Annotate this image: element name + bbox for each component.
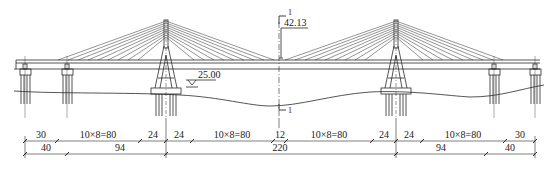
dim-label: 24 (404, 129, 414, 140)
dim-label: 10×8=80 (214, 129, 250, 140)
dim-label: 40 (505, 142, 515, 153)
pier-2 (62, 56, 73, 118)
bridge-deck (14, 60, 540, 69)
dim-label: 40 (41, 142, 51, 153)
dim-label: 30 (515, 129, 525, 140)
water-level-label: 25.00 (198, 69, 221, 80)
section-mark-top: 1 (288, 8, 292, 17)
section-mark-bottom: 1 (288, 106, 292, 115)
dim-label: 24 (174, 129, 184, 140)
dim-label: 12 (275, 129, 285, 140)
bridge-elevation-drawing: 42.13 25.00 1 1 30 10×8=80 24 24 10×8=80… (0, 0, 554, 172)
dim-label: 94 (115, 142, 125, 153)
water-level-marker (186, 80, 216, 87)
section-line-1-1 (279, 16, 286, 118)
dim-label: 10×8=80 (445, 129, 481, 140)
dimension-labels-row2: 40 94 220 94 40 (41, 142, 515, 153)
dim-label: 10×8=80 (311, 129, 347, 140)
dim-label: 10×8=80 (80, 129, 116, 140)
dim-label: 220 (273, 142, 288, 153)
dim-label: 24 (148, 129, 158, 140)
dim-label: 24 (379, 129, 389, 140)
dim-label: 30 (36, 129, 46, 140)
pier-1 (20, 56, 31, 118)
pier-3 (489, 56, 500, 118)
elevation-label-center: 42.13 (284, 17, 307, 28)
dim-label: 94 (436, 142, 446, 153)
dimension-labels-row1: 30 10×8=80 24 24 10×8=80 12 10×8=80 24 2… (36, 129, 525, 140)
